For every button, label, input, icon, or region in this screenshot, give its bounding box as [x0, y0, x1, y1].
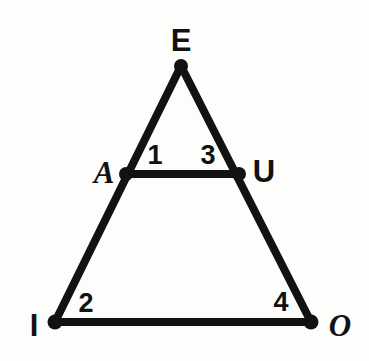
vertex-dot-U — [232, 167, 246, 181]
vertex-dot-A — [119, 167, 133, 181]
vertex-label-O: O — [329, 310, 351, 341]
vertex-dot-I — [48, 315, 63, 330]
vertex-label-E: E — [171, 25, 192, 56]
geometry-figure: E A U I O 1 2 3 4 — [0, 0, 369, 361]
edge-E-O — [181, 66, 311, 322]
edge-E-I — [55, 66, 181, 322]
angle-label-2: 2 — [78, 290, 93, 317]
angle-label-4: 4 — [273, 289, 288, 316]
angle-label-3: 3 — [200, 142, 215, 169]
vertex-label-I: I — [30, 310, 39, 341]
edge-group — [55, 66, 311, 322]
vertex-label-U: U — [253, 156, 275, 187]
vertex-dot-E — [174, 59, 188, 73]
vertex-label-A: A — [94, 157, 115, 188]
angle-label-1: 1 — [147, 142, 162, 169]
vertex-dot-O — [304, 315, 319, 330]
